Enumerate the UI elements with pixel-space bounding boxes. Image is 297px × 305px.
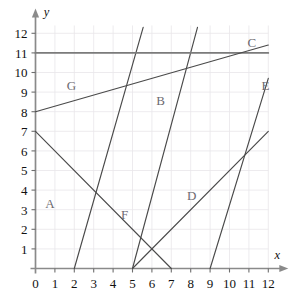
- x-axis-arrowhead: [279, 265, 288, 272]
- x-tick-label: 8: [187, 276, 194, 291]
- x-tick-label: 11: [243, 276, 256, 291]
- x-tick-label: 5: [129, 276, 136, 291]
- line-e: [210, 78, 268, 268]
- line-label-f: F: [121, 207, 128, 222]
- y-tick-label: 11: [15, 46, 28, 61]
- x-tick-label: 0: [32, 276, 39, 291]
- x-tick-label: 1: [52, 276, 59, 291]
- x-tick-label: 6: [149, 276, 156, 291]
- y-tick-label: 4: [21, 183, 28, 198]
- y-tick-label: 5: [21, 163, 28, 178]
- line-label-a: A: [45, 196, 55, 211]
- y-axis-label: y: [42, 5, 50, 19]
- line-labels: ABCDEFG: [45, 35, 269, 222]
- x-tick-label: 2: [71, 276, 78, 291]
- coordinate-plane-figure: 0123456789101112123456789101112 ABCDEFG …: [0, 0, 297, 305]
- x-axis-label: x: [274, 248, 281, 262]
- axis-names: xy: [42, 5, 281, 261]
- line-label-b: B: [156, 93, 165, 108]
- tick-marks: [32, 33, 269, 272]
- line-label-d: D: [187, 188, 196, 203]
- y-tick-label: 12: [15, 26, 28, 41]
- line-label-g: G: [67, 78, 76, 93]
- graph-canvas: 0123456789101112123456789101112 ABCDEFG …: [0, 0, 297, 305]
- line-label-c: C: [247, 35, 256, 50]
- y-tick-label: 2: [21, 222, 28, 237]
- x-tick-label: 7: [168, 276, 175, 291]
- x-tick-label: 3: [90, 276, 97, 291]
- line-d: [133, 131, 269, 268]
- line-b: [133, 27, 198, 268]
- x-tick-label: 12: [262, 276, 275, 291]
- x-tick-label: 10: [223, 276, 236, 291]
- grid-lines: [36, 25, 269, 268]
- y-tick-label: 7: [21, 124, 28, 139]
- y-tick-label: 6: [21, 144, 28, 159]
- y-axis-arrowhead: [32, 8, 39, 17]
- tick-labels: 0123456789101112123456789101112: [15, 26, 275, 290]
- y-tick-label: 1: [21, 242, 28, 257]
- y-tick-label: 8: [21, 105, 28, 120]
- x-tick-label: 4: [110, 276, 117, 291]
- line-label-e: E: [261, 78, 269, 93]
- x-tick-label: 9: [207, 276, 214, 291]
- y-tick-label: 10: [15, 65, 28, 80]
- y-tick-label: 3: [21, 203, 28, 218]
- y-tick-label: 9: [21, 85, 28, 100]
